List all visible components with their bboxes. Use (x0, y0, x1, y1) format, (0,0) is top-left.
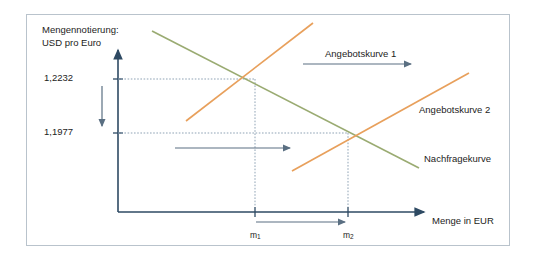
x-tick-label-m1: m1 (250, 230, 261, 240)
shift-arrows (102, 64, 411, 222)
supply-curve-1-line (186, 23, 313, 121)
m1-subscript: 1 (257, 233, 261, 240)
m2-subscript: 2 (350, 233, 354, 240)
y-tick-label-low: 1,1977 (44, 126, 73, 137)
guide-lines (118, 79, 348, 207)
y-axis-title-line2: USD pro Euro (42, 37, 101, 48)
demand-curve-label: Nachfragekurve (424, 153, 491, 164)
x-tick-label-m2: m2 (343, 230, 354, 240)
y-axis-title-line1: Mengennotierung: (42, 24, 119, 35)
figure-container: Mengennotierung: USD pro Euro 1,2232 1,1… (0, 0, 538, 262)
y-tick-label-high: 1,2232 (44, 72, 73, 83)
axis-group (118, 50, 424, 212)
supply-curve-1-label: Angebotskurve 1 (325, 48, 396, 59)
y-axis-title: Mengennotierung: USD pro Euro (42, 24, 119, 49)
supply-curve-2-label: Angebotskurve 2 (419, 104, 490, 115)
x-axis-title: Menge in EUR (432, 215, 494, 226)
